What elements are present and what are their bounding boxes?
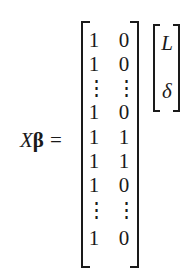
matrix-vdots: ⋮	[86, 199, 102, 221]
matrix-cell: 1	[116, 150, 132, 172]
vector-entry-l: L	[159, 32, 175, 54]
matrix-cell: 1	[86, 126, 102, 148]
matrix-vdots: ⋮	[86, 77, 102, 99]
matrix-cell: 1	[86, 150, 102, 172]
matrix-cell: 0	[116, 227, 132, 249]
matrix-cell: 0	[116, 29, 132, 51]
matrix-cell: 1	[116, 126, 132, 148]
matrix-cell: 1	[86, 29, 102, 51]
equals-sign: =	[50, 128, 62, 152]
symbol-x: X	[20, 128, 33, 152]
matrix-cell: 0	[116, 101, 132, 123]
matrix-cell: 0	[116, 53, 132, 75]
matrix-vdots: ⋮	[116, 77, 132, 99]
matrix-cell: 0	[116, 174, 132, 196]
matrix-cell: 1	[86, 101, 102, 123]
matrix-vdots: ⋮	[116, 199, 132, 221]
symbol-beta: β	[33, 128, 44, 152]
vector-entry-delta: δ	[159, 80, 175, 102]
equation-lhs: Xβ=	[20, 128, 62, 152]
matrix-cell: 1	[86, 227, 102, 249]
matrix-cell: 1	[86, 174, 102, 196]
matrix-cell: 1	[86, 53, 102, 75]
